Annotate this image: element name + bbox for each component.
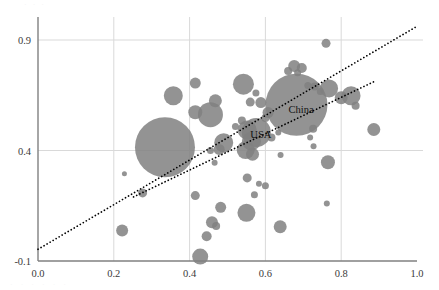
bubble-marker[interactable]	[311, 82, 319, 90]
bubble-marker[interactable]	[311, 143, 317, 149]
bubble-marker[interactable]	[322, 39, 331, 48]
bubble-marker[interactable]	[122, 171, 127, 176]
chart-canvas: 0.00.20.40.60.81.0-0.10.40.9ChinaUSA	[0, 0, 439, 290]
bubble-marker[interactable]	[251, 191, 258, 198]
bubble-marker[interactable]	[237, 204, 255, 222]
bubble-marker[interactable]	[278, 152, 284, 158]
bubble-marker[interactable]	[256, 181, 262, 187]
x-tick-label: 0.4	[183, 268, 197, 279]
y-tick-label: 0.4	[18, 146, 32, 157]
bubble-marker[interactable]	[135, 117, 195, 177]
x-tick-label: 0.0	[31, 268, 44, 279]
bubble-marker[interactable]	[309, 125, 317, 133]
bottom-ghost-artifact: · · · · · ·	[10, 280, 69, 289]
bubble-marker[interactable]	[190, 78, 201, 89]
x-tick-label: 1.0	[410, 268, 423, 279]
x-tick-label: 0.6	[259, 268, 272, 279]
bubble-marker[interactable]	[275, 129, 281, 135]
tick-labels: 0.00.20.40.60.81.0-0.10.40.9	[14, 35, 423, 279]
bubble-marker[interactable]	[246, 98, 255, 107]
bubble-marker[interactable]	[321, 155, 335, 169]
china-label: China	[288, 104, 313, 115]
bubble-marker[interactable]	[255, 97, 266, 108]
y-tick-label: 0.9	[18, 35, 31, 46]
bubble-chart: · · · 0.00.20.40.60.81.0-0.10.40.9ChinaU…	[0, 0, 439, 290]
bubble-marker[interactable]	[246, 148, 259, 161]
bubble-marker[interactable]	[243, 173, 252, 182]
bubble-marker[interactable]	[352, 102, 360, 110]
bubble-marker[interactable]	[304, 82, 311, 89]
bubble-marker[interactable]	[191, 191, 200, 200]
bubble-marker[interactable]	[233, 74, 254, 95]
x-tick-label: 0.2	[107, 268, 120, 279]
bubble-marker[interactable]	[294, 69, 301, 76]
bubble-marker[interactable]	[320, 79, 338, 97]
data-points	[116, 39, 380, 265]
bubble-marker[interactable]	[212, 160, 218, 166]
usa-label: USA	[250, 129, 271, 140]
bubble-marker[interactable]	[209, 94, 222, 107]
bubble-marker[interactable]	[261, 114, 269, 122]
bubble-marker[interactable]	[274, 220, 287, 233]
bubble-marker[interactable]	[192, 249, 208, 265]
bubble-marker[interactable]	[324, 201, 330, 207]
bubble-marker[interactable]	[164, 86, 183, 105]
bubble-marker[interactable]	[212, 222, 220, 230]
bubble-marker[interactable]	[215, 202, 226, 213]
bubble-marker[interactable]	[307, 134, 313, 140]
bubble-marker[interactable]	[252, 90, 259, 97]
x-tick-label: 0.8	[335, 268, 348, 279]
bubble-marker[interactable]	[188, 105, 202, 119]
y-tick-label: -0.1	[14, 256, 31, 267]
bubble-marker[interactable]	[202, 231, 212, 241]
bubble-marker[interactable]	[214, 144, 225, 155]
bubble-marker[interactable]	[367, 123, 380, 136]
bubble-marker[interactable]	[116, 225, 128, 237]
bubble-marker[interactable]	[262, 182, 269, 189]
